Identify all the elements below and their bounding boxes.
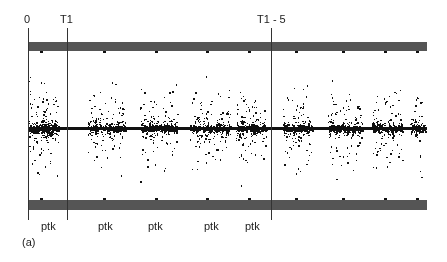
segment-label: ptk (204, 220, 219, 232)
segment-label: ptk (148, 220, 163, 232)
segment-label: ptk (41, 220, 56, 232)
figure-panel: 0 T1 T1 - 5 ptk ptk ptk ptk ptk (a) (0, 0, 447, 262)
marker-label-0: 0 (24, 13, 30, 25)
marker-label-t1-5: T1 - 5 (257, 13, 286, 25)
segment-label: ptk (98, 220, 113, 232)
marker-line-0 (28, 28, 29, 220)
bottom-reference-bar (28, 200, 427, 210)
panel-label: (a) (22, 236, 35, 248)
marker-line-t1-5 (271, 28, 272, 220)
marker-line-t1 (67, 28, 68, 220)
marker-label-t1: T1 (60, 13, 73, 25)
top-reference-bar (28, 42, 427, 51)
segment-label: ptk (245, 220, 260, 232)
